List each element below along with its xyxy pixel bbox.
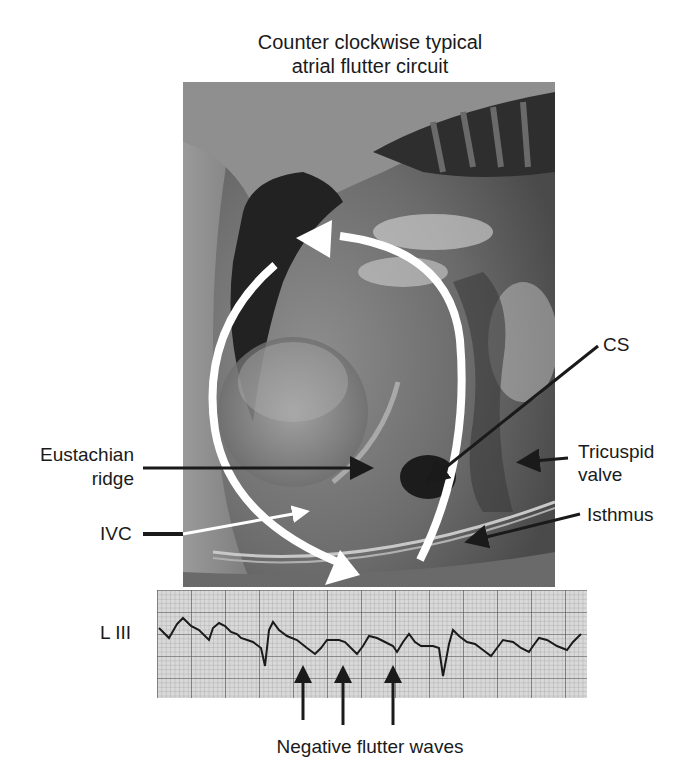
label-tricuspid-valve: Tricuspid valve [578,440,654,486]
figure-title: Counter clockwise typical atrial flutter… [180,30,560,78]
label-eustachian-line2: ridge [30,467,134,491]
label-cs: CS [603,333,629,357]
label-ivc: IVC [100,522,132,546]
title-line-2: atrial flutter circuit [180,54,560,78]
atrium-anatomy-image [183,82,555,587]
label-eustachian-line1: Eustachian [30,443,134,467]
label-negative-flutter-waves: Negative flutter waves [180,735,560,759]
ecg-strip-lead-iii [157,590,587,698]
right-atrium-photo [183,82,555,587]
title-line-1: Counter clockwise typical [180,30,560,54]
label-ecg-lead: L III [100,621,131,645]
ecg-trace [157,590,587,698]
label-eustachian-ridge: Eustachian ridge [30,443,134,491]
label-tricuspid-line2: valve [578,463,654,486]
label-isthmus: Isthmus [587,503,654,527]
label-tricuspid-line1: Tricuspid [578,440,654,463]
